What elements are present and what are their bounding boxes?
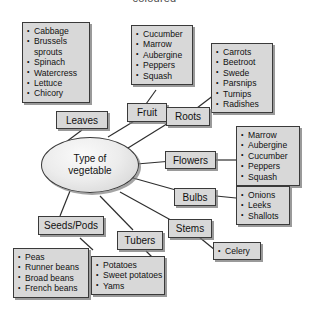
list-item: Yams: [96, 281, 160, 291]
list-item: Cucumber: [241, 151, 295, 161]
list-item: Lettuce: [27, 78, 85, 88]
list-roots: Carrots Beetroot Swede Parsnips Turnips …: [211, 43, 273, 113]
list-item-continuation: sprouts: [27, 47, 85, 57]
edge-bulbs-to-list: [216, 196, 236, 198]
list-item: Swede: [216, 68, 268, 78]
list-item: Peppers: [136, 60, 188, 70]
category-node-bulbs-label: Bulbs: [182, 192, 207, 203]
list-item: Parsnips: [216, 78, 268, 88]
list-item: Sweet potatoes: [96, 270, 160, 280]
category-node-stems-label: Stems: [176, 223, 204, 234]
edge-center-to-tubers: [100, 196, 133, 230]
category-node-flowers-label: Flowers: [173, 155, 208, 166]
list-item: Squash: [136, 71, 188, 81]
vegetable-classification-diagram: coloured Cabbage Brussels sprouts: [0, 0, 309, 311]
center-node-text: Type of vegetable: [68, 153, 111, 177]
list-item: Shallots: [241, 211, 285, 221]
list-item: Carrots: [216, 47, 268, 57]
edge-center-to-fruit: [108, 120, 136, 137]
center-node-line-2: vegetable: [68, 165, 111, 177]
edge-center-to-seedspods: [60, 191, 70, 216]
list-item: French beans: [18, 283, 84, 293]
list-seeds-pods: Peas Runner beans Broad beans French bea…: [13, 248, 89, 298]
category-node-leaves-label: Leaves: [66, 115, 98, 126]
category-node-fruit-label: Fruit: [137, 107, 157, 118]
list-flowers: Marrow Aubergine Cucumber Peppers Squash: [236, 126, 300, 186]
list-item: Marrow: [241, 130, 295, 140]
list-item: Runner beans: [18, 262, 84, 272]
list-item: Onions: [241, 190, 285, 200]
list-stems-items: Celery: [218, 246, 256, 256]
list-item: Spinach: [27, 57, 85, 67]
list-bulbs-items: Onions Leeks Shallots: [241, 190, 285, 221]
edge-center-to-roots: [128, 122, 170, 148]
list-item: Peas: [18, 252, 84, 262]
list-item: Beetroot: [216, 57, 268, 67]
list-item: Brussels: [27, 36, 85, 46]
list-item: Leeks: [241, 200, 285, 210]
category-node-fruit[interactable]: Fruit: [127, 103, 167, 122]
list-tubers: Potatoes Sweet potatoes Yams: [91, 256, 165, 295]
list-bulbs: Onions Leeks Shallots: [236, 186, 290, 225]
list-item: Peppers: [241, 161, 295, 171]
list-item: Cucumber: [136, 29, 188, 39]
center-node-type-of-vegetable[interactable]: Type of vegetable: [41, 137, 139, 193]
list-item: Turnips: [216, 89, 268, 99]
category-node-flowers[interactable]: Flowers: [165, 151, 216, 169]
list-tubers-items: Potatoes Sweet potatoes Yams: [96, 260, 160, 291]
list-item: Marrow: [136, 39, 188, 49]
list-item: Potatoes: [96, 260, 160, 270]
list-roots-items: Carrots Beetroot Swede Parsnips Turnips …: [216, 47, 268, 109]
list-leaves: Cabbage Brussels sprouts Spinach Watercr…: [22, 22, 90, 103]
list-flowers-items: Marrow Aubergine Cucumber Peppers Squash: [241, 130, 295, 182]
edge-fruit-to-list: [146, 90, 156, 104]
category-node-seeds-pods-label: Seeds/Pods: [44, 220, 98, 231]
category-node-tubers-label: Tubers: [125, 235, 156, 246]
list-fruit-items: Cucumber Marrow Aubergine Peppers Squash: [136, 29, 188, 81]
category-node-leaves[interactable]: Leaves: [56, 111, 108, 129]
list-item: Aubergine: [241, 140, 295, 150]
category-node-bulbs[interactable]: Bulbs: [174, 188, 216, 206]
list-item: Celery: [218, 246, 256, 256]
list-item: Cabbage: [27, 26, 85, 36]
list-leaves-items: Cabbage Brussels sprouts Spinach Watercr…: [27, 26, 85, 99]
list-stems: Celery: [213, 242, 261, 260]
category-node-roots-label: Roots: [175, 111, 201, 122]
list-item: Radishes: [216, 99, 268, 109]
list-item: Watercress: [27, 68, 85, 78]
center-node-line-1: Type of: [68, 153, 111, 165]
category-node-seeds-pods[interactable]: Seeds/Pods: [38, 216, 104, 235]
list-item: Chicory: [27, 88, 85, 98]
list-seeds-pods-items: Peas Runner beans Broad beans French bea…: [18, 252, 84, 294]
list-item: Squash: [241, 172, 295, 182]
category-node-roots[interactable]: Roots: [166, 107, 210, 126]
list-item: Aubergine: [136, 50, 188, 60]
category-node-tubers[interactable]: Tubers: [117, 231, 163, 250]
category-node-stems[interactable]: Stems: [168, 219, 212, 238]
list-fruit: Cucumber Marrow Aubergine Peppers Squash: [131, 25, 193, 85]
list-item: Broad beans: [18, 273, 84, 283]
